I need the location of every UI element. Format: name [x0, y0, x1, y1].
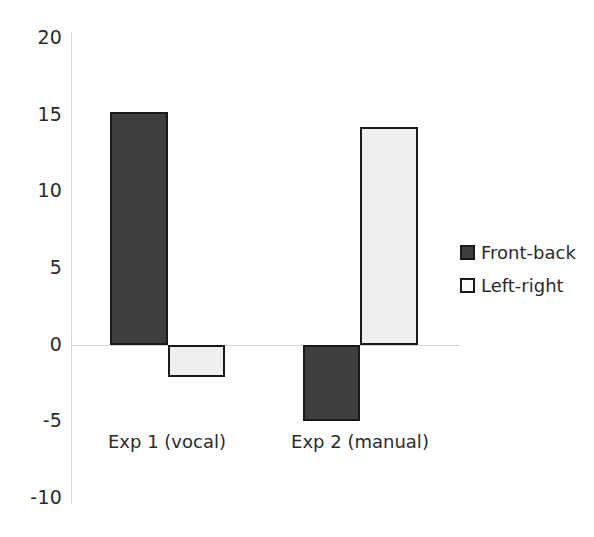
y-axis-tick-label: 0: [6, 335, 62, 354]
legend-label-front-back: Front-back: [481, 243, 576, 263]
x-axis-category-label: Exp 2 (manual): [270, 432, 450, 452]
bar-left-right-group-2: [360, 127, 418, 345]
y-axis-tick: 0: [0, 335, 62, 354]
y-axis-tick-label: 15: [6, 105, 62, 124]
bar-front-back-group-1: [110, 112, 168, 345]
y-axis-tick: -5: [0, 411, 62, 430]
legend-swatch-icon-left-right: [460, 278, 475, 293]
bar-left-right-group-1: [168, 345, 225, 377]
y-axis-tick: 15: [0, 105, 62, 124]
y-axis-tick: 5: [0, 258, 62, 277]
y-axis-tick: 20: [0, 28, 62, 47]
legend-item-front-back[interactable]: Front-back: [460, 236, 576, 269]
bar-front-back-group-2: [303, 345, 360, 422]
y-axis-tick: -10: [0, 488, 62, 507]
bar-chart: 20151050-5-10 Exp 1 (vocal)Exp 2 (manual…: [0, 0, 594, 537]
legend: Front-back Left-right: [460, 236, 576, 302]
legend-item-left-right[interactable]: Left-right: [460, 269, 576, 302]
y-axis-tick-label: 20: [6, 28, 62, 47]
y-axis-tick-label: 10: [6, 181, 62, 200]
legend-swatch-icon-front-back: [460, 245, 475, 260]
y-axis-tick: 10: [0, 181, 62, 200]
legend-label-left-right: Left-right: [481, 276, 564, 296]
y-axis-tick-label: 5: [6, 258, 62, 277]
x-axis-category-label: Exp 1 (vocal): [77, 432, 257, 452]
y-axis-tick-label: -10: [6, 488, 62, 507]
y-axis-tick-label: -5: [6, 411, 62, 430]
